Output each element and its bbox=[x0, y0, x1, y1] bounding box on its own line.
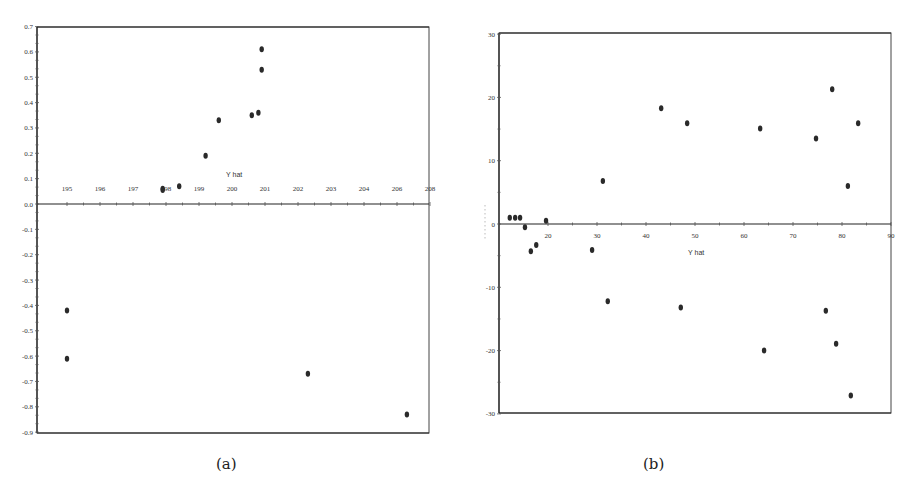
y-tick-label: -0.9 bbox=[22, 429, 34, 437]
y-tick-label: 0.1 bbox=[24, 175, 33, 183]
data-point bbox=[544, 218, 548, 224]
data-point bbox=[65, 356, 69, 362]
data-point bbox=[659, 105, 663, 111]
y-tick-label: 0.0 bbox=[24, 201, 33, 209]
data-point bbox=[534, 242, 538, 248]
data-point bbox=[306, 371, 310, 377]
x-tick-label: 195 bbox=[62, 185, 73, 193]
y-tick-label: 0.6 bbox=[24, 48, 33, 56]
y-tick-label: -30 bbox=[486, 410, 496, 418]
data-point bbox=[529, 248, 533, 254]
x-tick-label: 204 bbox=[359, 185, 370, 193]
caption-b: (b) bbox=[643, 455, 664, 473]
data-point bbox=[518, 215, 522, 221]
y-tick-label: 30 bbox=[488, 31, 496, 39]
y-tick-label: -0.1 bbox=[22, 226, 34, 234]
scatter-plot-a: 0.70.60.50.40.30.20.10.0-0.1-0.2-0.3-0.4… bbox=[22, 23, 436, 437]
data-point bbox=[849, 393, 853, 399]
x-tick-label: 20 bbox=[545, 232, 553, 240]
x-axis-label: Y hat bbox=[688, 249, 704, 256]
data-point bbox=[217, 117, 221, 123]
data-point bbox=[65, 307, 69, 313]
y-tick-label: 0 bbox=[492, 221, 496, 229]
data-point bbox=[508, 215, 512, 221]
y-tick-label: -0.2 bbox=[22, 251, 34, 259]
x-tick-label: 80 bbox=[839, 232, 847, 240]
y-tick-label: 0.3 bbox=[24, 124, 33, 132]
data-point bbox=[824, 308, 828, 314]
x-tick-label: 30 bbox=[594, 232, 602, 240]
x-tick-label: 208 bbox=[425, 185, 436, 193]
data-point bbox=[830, 86, 834, 92]
y-tick-label: -0.3 bbox=[22, 277, 34, 285]
y-tick-label: -0.4 bbox=[22, 302, 34, 310]
data-point bbox=[601, 178, 605, 184]
x-tick-label: 40 bbox=[643, 232, 651, 240]
x-tick-label: 206 bbox=[392, 185, 403, 193]
data-point bbox=[203, 153, 207, 159]
data-point bbox=[679, 305, 683, 311]
y-tick-label: 20 bbox=[488, 94, 496, 102]
y-tick-label: 0.7 bbox=[24, 23, 33, 31]
data-point bbox=[606, 298, 610, 304]
data-point bbox=[256, 110, 260, 116]
y-tick-label: -0.5 bbox=[22, 327, 34, 335]
data-point bbox=[758, 125, 762, 131]
y-tick-label: 0.5 bbox=[24, 74, 33, 82]
data-point bbox=[260, 67, 264, 73]
y-tick-label: -10 bbox=[486, 284, 496, 292]
data-point bbox=[250, 112, 254, 118]
x-axis-label: Y hat bbox=[226, 171, 242, 178]
data-point bbox=[846, 183, 850, 189]
x-tick-label: 201 bbox=[260, 185, 271, 193]
x-tick-label: 196 bbox=[95, 185, 106, 193]
x-tick-label: 203 bbox=[326, 185, 337, 193]
y-tick-label: -0.6 bbox=[22, 353, 34, 361]
x-tick-label: 200 bbox=[227, 185, 238, 193]
x-tick-label: 90 bbox=[888, 232, 896, 240]
data-point bbox=[260, 46, 264, 52]
x-tick-label: 199 bbox=[194, 185, 205, 193]
x-tick-label: 60 bbox=[741, 232, 749, 240]
data-point bbox=[834, 341, 838, 347]
y-tick-label: -20 bbox=[486, 347, 496, 355]
x-tick-label: 50 bbox=[692, 232, 700, 240]
data-point bbox=[161, 187, 165, 193]
x-tick-label: 202 bbox=[293, 185, 304, 193]
x-tick-label: 70 bbox=[790, 232, 798, 240]
data-point bbox=[814, 136, 818, 142]
y-tick-label: 0.4 bbox=[24, 99, 33, 107]
figure-canvas: 0.70.60.50.40.30.20.10.0-0.1-0.2-0.3-0.4… bbox=[0, 0, 921, 503]
data-point bbox=[762, 348, 766, 354]
y-tick-label: -0.7 bbox=[22, 378, 34, 386]
caption-a: (a) bbox=[216, 455, 237, 473]
data-point bbox=[856, 120, 860, 126]
y-tick-label: 10 bbox=[488, 157, 496, 165]
y-tick-label: 0.2 bbox=[24, 150, 33, 158]
data-point bbox=[685, 120, 689, 126]
scatter-plot-b: 3020100-10-20-302030405060708090Y hat bbox=[485, 31, 895, 419]
y-tick-label: -0.8 bbox=[22, 403, 34, 411]
data-point bbox=[405, 411, 409, 417]
data-point bbox=[513, 215, 517, 221]
x-tick-label: 197 bbox=[128, 185, 139, 193]
data-point bbox=[590, 247, 594, 253]
data-point bbox=[177, 183, 181, 189]
plot-frame bbox=[37, 27, 429, 433]
data-point bbox=[523, 224, 527, 230]
